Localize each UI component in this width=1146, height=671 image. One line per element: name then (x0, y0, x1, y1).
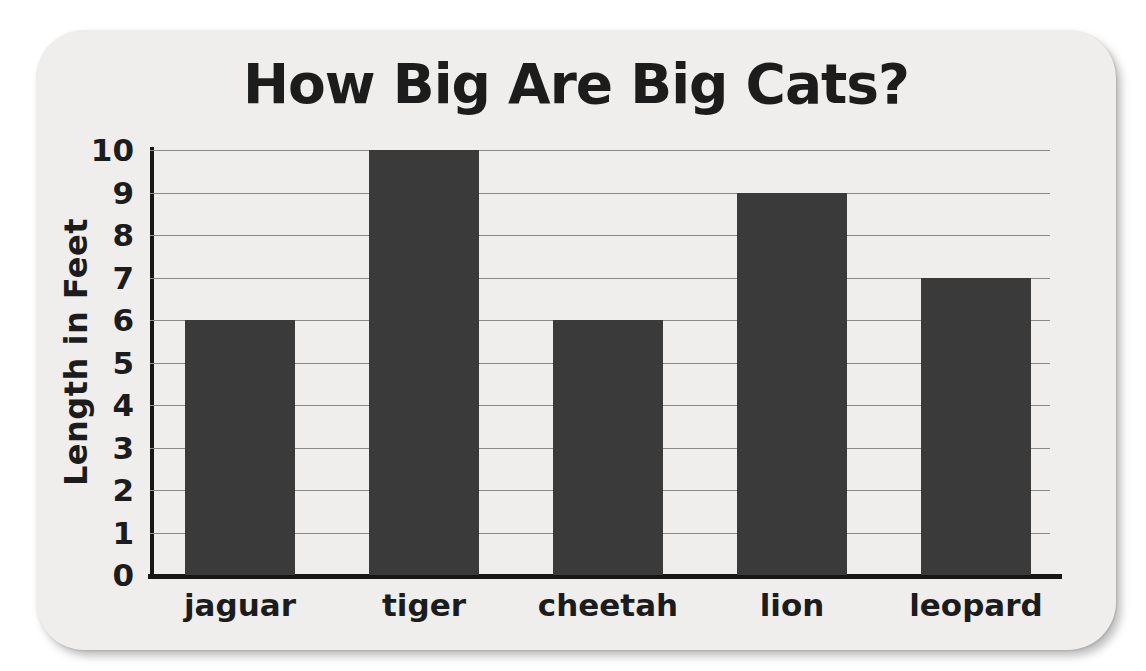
x-category-label: lion (697, 587, 887, 623)
bar-tiger (369, 150, 479, 575)
bar-lion (737, 193, 847, 576)
x-category-label: jaguar (145, 587, 335, 623)
y-tick-label: 10 (74, 133, 134, 167)
grid-line (150, 193, 1050, 194)
grid-line (150, 235, 1050, 236)
y-tick-label: 2 (74, 473, 134, 507)
x-category-label: leopard (881, 587, 1071, 623)
grid-line (150, 278, 1050, 279)
y-tick-label: 0 (74, 558, 134, 592)
y-tick-label: 5 (74, 346, 134, 380)
y-tick-label: 4 (74, 388, 134, 422)
x-category-label: cheetah (513, 587, 703, 623)
chart-title: How Big Are Big Cats? (36, 52, 1116, 116)
y-tick-label: 6 (74, 303, 134, 337)
grid-line (150, 150, 1050, 151)
y-axis-line (150, 147, 154, 575)
bar-jaguar (185, 320, 295, 575)
y-tick-label: 7 (74, 261, 134, 295)
y-tick-label: 8 (74, 218, 134, 252)
chart-card: How Big Are Big Cats? Length in Feet 012… (36, 30, 1116, 650)
bar-cheetah (553, 320, 663, 575)
bar-leopard (921, 278, 1031, 576)
y-tick-label: 1 (74, 516, 134, 550)
x-category-label: tiger (329, 587, 519, 623)
y-tick-label: 3 (74, 431, 134, 465)
y-tick-label: 9 (74, 176, 134, 210)
plot-area: 012345678910jaguartigercheetahlionleopar… (150, 150, 1060, 575)
